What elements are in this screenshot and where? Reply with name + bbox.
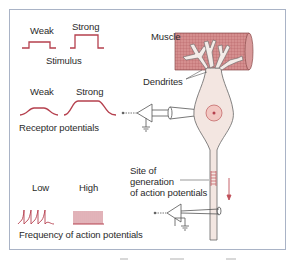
muscle-label: Muscle <box>151 31 181 42</box>
caption-remnant <box>120 258 236 260</box>
ap-low-label: Low <box>32 182 49 193</box>
receptor-strong-label: Strong <box>76 86 103 97</box>
dendrites-label: Dendrites <box>143 76 183 87</box>
receptor-weak-label: Weak <box>30 86 54 97</box>
ap-high-label: High <box>79 182 98 193</box>
ap-high-frequency <box>73 211 104 224</box>
receptor-strong-trace <box>64 101 116 115</box>
site-label-line1: Site of <box>130 165 156 176</box>
stimulus-strong-label: Strong <box>72 21 99 32</box>
propagation-arrow <box>227 178 231 200</box>
stimulus-strong-trace <box>70 35 104 48</box>
ap-low-frequency <box>18 210 54 224</box>
site-label-line2: generation <box>130 176 174 187</box>
receptor-title: Receptor potentials <box>19 122 99 133</box>
receptor-weak-trace <box>20 108 58 115</box>
receptor-diagram <box>0 0 291 266</box>
stimulus-weak-label: Weak <box>30 25 54 36</box>
stimulus-weak-trace <box>22 42 56 48</box>
site-label-line3: of action potentials <box>130 187 207 198</box>
ap-title: Frequency of action potentials <box>19 229 143 240</box>
stimulus-title: Stimulus <box>46 55 82 66</box>
